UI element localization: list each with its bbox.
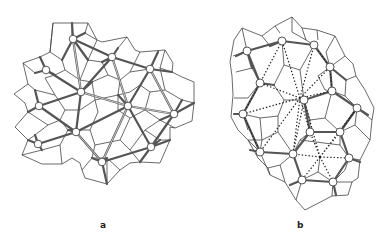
panel-a-tessellation — [14, 23, 194, 184]
panel-b-label: b — [297, 220, 303, 230]
diagram-canvas — [0, 0, 388, 240]
panel-b-connections — [234, 41, 368, 195]
panel-a-connections — [28, 23, 194, 184]
panel-b-nodes — [239, 37, 361, 186]
panel-b-tessellation — [230, 17, 374, 210]
panel-b-dotted-links — [243, 41, 357, 182]
panel-a-label: a — [100, 220, 106, 230]
